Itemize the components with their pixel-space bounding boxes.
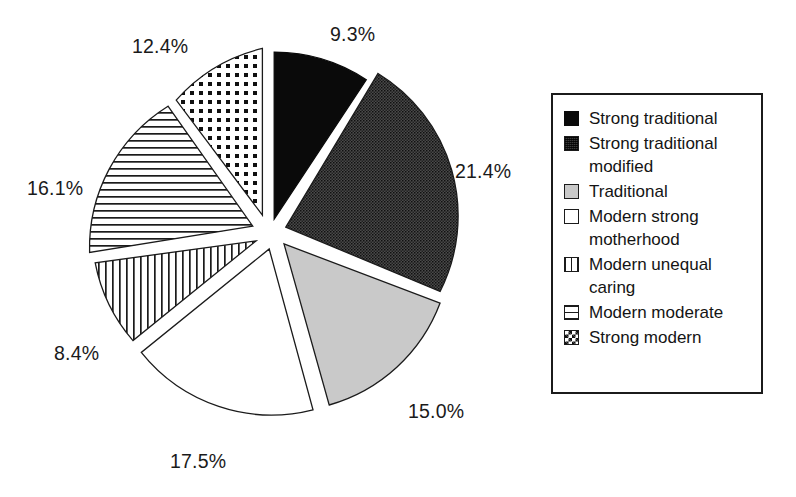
- legend-swatch-white-icon: [564, 209, 579, 224]
- slice-value-label-modern-strong-motherhood: 17.5%: [170, 452, 226, 472]
- slice-value-label-modern-unequal-caring: 8.4%: [54, 344, 99, 364]
- slice-value-label-traditional: 15.0%: [408, 402, 464, 422]
- slice-value-label-strong-traditional: 9.3%: [330, 25, 375, 45]
- legend-item-traditional[interactable]: Traditional: [564, 180, 755, 203]
- slice-value-label-strong-traditional-modified: 21.4%: [455, 162, 511, 182]
- legend-swatch-horizontal-lines-icon: [564, 305, 579, 320]
- legend-label: Modern unequal caring: [589, 253, 712, 299]
- legend-item-strong-traditional-modified[interactable]: Strong traditional modified: [564, 132, 755, 178]
- legend-label: Strong traditional: [589, 107, 718, 130]
- legend-item-strong-modern[interactable]: Strong modern: [564, 326, 755, 349]
- legend-swatch-light-gray-icon: [564, 184, 579, 199]
- legend-label: Strong traditional modified: [589, 132, 718, 178]
- legend-list: Strong traditional Strong traditional mo…: [564, 107, 755, 351]
- legend-label: Modern strong motherhood: [589, 205, 699, 251]
- legend-item-modern-strong-motherhood[interactable]: Modern strong motherhood: [564, 205, 755, 251]
- legend: Strong traditional Strong traditional mo…: [551, 93, 763, 394]
- legend-swatch-checker-dots-icon: [564, 330, 579, 345]
- legend-label: Modern moderate: [589, 301, 723, 324]
- legend-swatch-vertical-lines-icon: [564, 257, 579, 272]
- legend-item-modern-unequal-caring[interactable]: Modern unequal caring: [564, 253, 755, 299]
- legend-swatch-solid-black-icon: [564, 111, 579, 126]
- legend-item-modern-moderate[interactable]: Modern moderate: [564, 301, 755, 324]
- slice-value-label-modern-moderate: 16.1%: [27, 179, 83, 199]
- slice-value-label-strong-modern: 12.4%: [132, 37, 188, 57]
- legend-swatch-dark-speckle-icon: [564, 136, 579, 151]
- legend-label: Traditional: [589, 180, 668, 203]
- pie-svg: [0, 0, 540, 497]
- pie-chart-figure: 9.3% 21.4% 15.0% 17.5% 8.4% 16.1% 12.4% …: [0, 0, 796, 497]
- legend-item-strong-traditional[interactable]: Strong traditional: [564, 107, 755, 130]
- pie-plot-area: 9.3% 21.4% 15.0% 17.5% 8.4% 16.1% 12.4%: [0, 0, 540, 497]
- legend-label: Strong modern: [589, 326, 701, 349]
